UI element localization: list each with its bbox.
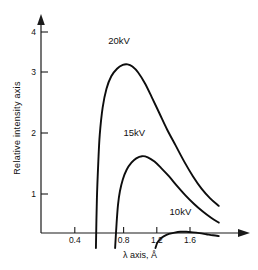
y-tick-label-1: 1 (31, 189, 36, 199)
series-label-15kv: 15kV (123, 127, 145, 138)
x-tick-label-0-8: 0.8 (118, 235, 130, 245)
x-axis-arrow-icon (238, 229, 250, 237)
series-label-20kv: 20kV (108, 35, 130, 46)
series-label-10kv: 10kV (170, 206, 192, 217)
y-tick-label-4: 4 (31, 27, 36, 37)
chart-figure: 4 3 2 1 0.4 0.8 1.2 1.6 λ axis, Å Relati… (0, 0, 258, 270)
y-axis-title: Relative intensity axis (12, 81, 22, 175)
series-curve-20kv (96, 64, 219, 248)
y-tick-label-3: 3 (31, 67, 36, 77)
x-tick-label-1-6: 1.6 (184, 235, 196, 245)
chart-canvas: 4 3 2 1 0.4 0.8 1.2 1.6 λ axis, Å Relati… (0, 0, 258, 270)
x-axis-title: λ axis, Å (123, 250, 157, 260)
y-axis-arrow-icon (37, 14, 45, 25)
x-tick-label-0-4: 0.4 (69, 235, 81, 245)
y-tick-label-2: 2 (31, 128, 36, 138)
